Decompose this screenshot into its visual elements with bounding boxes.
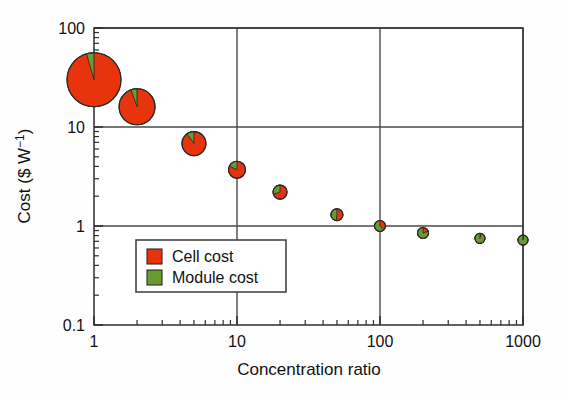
- x-axis-tick-labels: 1101001000: [90, 333, 541, 350]
- y-tick-label: 10: [67, 119, 85, 136]
- pie-marker: [273, 185, 287, 199]
- legend-swatch-module-cost: [147, 270, 162, 285]
- pie-marker: [418, 227, 429, 238]
- legend-label-cell-cost: Cell cost: [172, 248, 234, 265]
- cost-vs-concentration-chart: 1101001000 0.1110100 Concentration ratio…: [0, 0, 568, 401]
- pie-marker: [331, 209, 343, 221]
- x-tick-label: 100: [367, 333, 394, 350]
- y-tick-label: 100: [58, 20, 85, 37]
- pie-marker: [518, 235, 528, 245]
- pie-marker: [229, 161, 246, 178]
- y-axis-title: Cost ($ W−1): [13, 129, 34, 224]
- x-tick-label: 10: [228, 333, 246, 350]
- y-tick-label: 0.1: [63, 317, 85, 334]
- pie-marker: [67, 53, 121, 107]
- legend-swatch-cell-cost: [147, 249, 162, 264]
- x-tick-label: 1000: [505, 333, 541, 350]
- pie-marker: [182, 132, 206, 156]
- legend: Cell cost Module cost: [136, 240, 286, 292]
- pie-marker: [119, 89, 155, 125]
- pie-marker: [374, 221, 385, 232]
- pie-marker: [475, 233, 485, 243]
- figure-container: 1101001000 0.1110100 Concentration ratio…: [0, 0, 568, 401]
- x-tick-label: 1: [90, 333, 99, 350]
- y-tick-label: 1: [76, 218, 85, 235]
- x-axis-title: Concentration ratio: [237, 360, 381, 379]
- legend-label-module-cost: Module cost: [172, 269, 259, 286]
